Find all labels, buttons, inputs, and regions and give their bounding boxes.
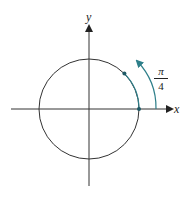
angle-numerator: π: [154, 65, 168, 79]
y-axis-label: y: [86, 11, 91, 23]
start-point: [137, 107, 141, 111]
angle-arc-on-circle: [124, 74, 139, 109]
angle-label: π 4: [154, 65, 168, 92]
angle-denominator: 4: [154, 79, 168, 92]
unit-circle-diagram: [0, 0, 189, 199]
terminal-point: [122, 72, 126, 76]
x-axis-label: x: [174, 103, 179, 115]
